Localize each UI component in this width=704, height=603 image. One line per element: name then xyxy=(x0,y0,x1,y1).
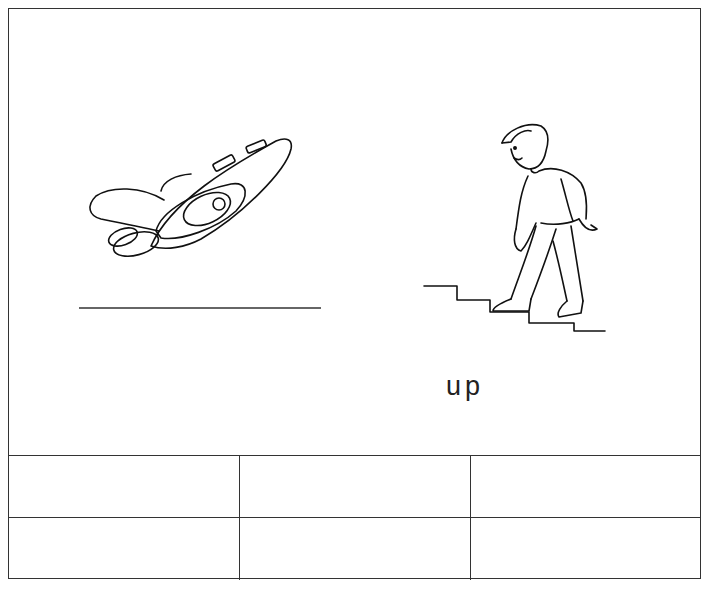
answer-grid xyxy=(9,455,700,580)
boy-on-stairs-icon xyxy=(424,125,605,331)
answer-cell[interactable] xyxy=(9,456,240,518)
picture-area: up xyxy=(9,9,700,456)
answer-cell[interactable] xyxy=(240,518,471,580)
answer-cell[interactable] xyxy=(9,518,240,580)
illustrations xyxy=(9,9,702,456)
worksheet-frame: up xyxy=(8,8,701,579)
answer-cell[interactable] xyxy=(240,456,471,518)
answer-cell[interactable] xyxy=(471,456,700,518)
airplane-icon xyxy=(90,139,291,261)
word-label: up xyxy=(446,371,484,402)
answer-cell[interactable] xyxy=(471,518,700,580)
